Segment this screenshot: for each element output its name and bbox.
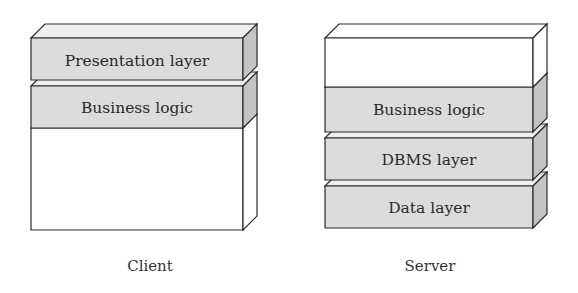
server-caption: Server: [405, 257, 457, 275]
server-stack: [325, 24, 547, 228]
server-dbms-label: DBMS layer: [382, 151, 477, 169]
server-business-logic-label: Business logic: [373, 101, 485, 119]
client-caption: Client: [127, 257, 173, 275]
server-data-label: Data layer: [388, 199, 470, 217]
client-server-diagram: Presentation layer Business logic Client: [0, 0, 578, 293]
client-business-logic-label: Business logic: [81, 99, 193, 117]
client-presentation-label: Presentation layer: [65, 52, 210, 70]
server-empty-layer: [325, 24, 547, 87]
client-empty-layer: [31, 114, 257, 230]
